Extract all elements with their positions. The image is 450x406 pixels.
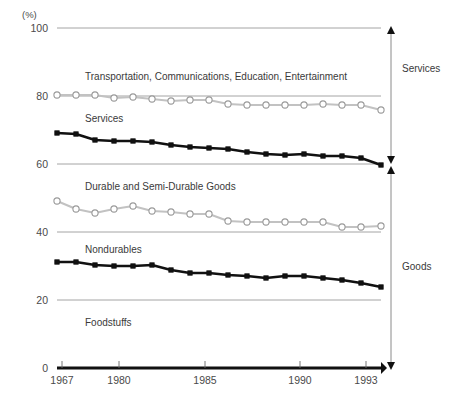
- y-tick-label-0: 0: [42, 362, 48, 374]
- series-nondurables-line: [57, 262, 381, 287]
- series-services-line: [57, 133, 381, 165]
- data-point: [92, 210, 98, 216]
- data-point: [301, 102, 307, 108]
- data-point: [55, 260, 59, 264]
- data-point: [207, 271, 211, 275]
- data-point: [93, 138, 97, 142]
- bracket-services-arrow-top: [387, 26, 395, 34]
- data-point: [225, 101, 231, 107]
- data-point: [263, 102, 269, 108]
- y-tick-label-80: 80: [36, 90, 48, 102]
- series-label-foodstuffs: Foodstuffs: [85, 317, 132, 328]
- bracket-services-arrow-bottom: [387, 156, 395, 164]
- x-tick-label-1993: 1993: [354, 374, 378, 386]
- data-point: [320, 219, 326, 225]
- data-point: [130, 203, 136, 209]
- data-point: [264, 152, 268, 156]
- data-point: [54, 92, 60, 98]
- bracket-goods-arrow-bottom: [387, 362, 395, 370]
- x-tick-label-1990: 1990: [288, 374, 312, 386]
- bracket-goods-arrow-top: [387, 166, 395, 174]
- data-point: [244, 102, 250, 108]
- y-axis-tick-labels: (%) 100 80 60 40 20 0: [22, 9, 48, 374]
- data-point: [150, 263, 154, 267]
- data-point: [283, 274, 287, 278]
- x-axis: 1967 1980 1985 1990 1993: [50, 361, 387, 386]
- data-point: [149, 208, 155, 214]
- data-point: [340, 278, 344, 282]
- data-point: [169, 143, 173, 147]
- data-point: [320, 101, 326, 107]
- series-durables-boundary: Durable and Semi-Durable Goods: [54, 181, 384, 230]
- data-point: [74, 260, 78, 264]
- data-point: [131, 264, 135, 268]
- data-point: [339, 224, 345, 230]
- data-point: [112, 264, 116, 268]
- y-tick-label-40: 40: [36, 226, 48, 238]
- bracket-goods-label: Goods: [402, 261, 431, 272]
- data-point: [73, 92, 79, 98]
- data-point: [379, 163, 383, 167]
- data-point: [207, 146, 211, 150]
- series-label-transportation: Transportation, Communications, Educatio…: [85, 71, 347, 82]
- series-services-boundary: Services: [55, 113, 383, 167]
- data-point: [378, 107, 384, 113]
- data-point: [111, 206, 117, 212]
- data-point: [111, 95, 117, 101]
- series-durables-line: [57, 201, 381, 227]
- bracket-goods: Goods: [387, 166, 431, 370]
- data-point: [188, 271, 192, 275]
- data-point: [301, 219, 307, 225]
- data-point: [358, 224, 364, 230]
- data-point: [245, 150, 249, 154]
- series-nondurables-boundary: Nondurables: [55, 244, 383, 289]
- data-point: [283, 153, 287, 157]
- data-point: [169, 268, 173, 272]
- data-point: [150, 140, 154, 144]
- data-point: [378, 223, 384, 229]
- data-point: [130, 94, 136, 100]
- series-label-durables: Durable and Semi-Durable Goods: [85, 181, 236, 192]
- data-point: [206, 211, 212, 217]
- series-top-boundary: Transportation, Communications, Educatio…: [54, 71, 384, 113]
- y-tick-label-60: 60: [36, 158, 48, 170]
- data-point: [187, 97, 193, 103]
- bracket-services: Services: [387, 26, 440, 164]
- series-top-line: [57, 95, 381, 110]
- data-point: [149, 96, 155, 102]
- gridlines: [57, 28, 381, 300]
- x-tick-label-1967: 1967: [50, 374, 74, 386]
- data-point: [263, 219, 269, 225]
- data-point: [112, 139, 116, 143]
- series-label-services: Services: [85, 113, 123, 124]
- data-point: [226, 147, 230, 151]
- data-point: [168, 209, 174, 215]
- data-point: [54, 198, 60, 204]
- data-point: [226, 273, 230, 277]
- data-point: [74, 132, 78, 136]
- data-point: [188, 145, 192, 149]
- y-tick-label-20: 20: [36, 294, 48, 306]
- data-point: [358, 102, 364, 108]
- data-point: [379, 285, 383, 289]
- data-point: [187, 211, 193, 217]
- x-axis-arrowhead: [381, 362, 387, 374]
- data-point: [359, 281, 363, 285]
- series-label-nondurables: Nondurables: [85, 244, 142, 255]
- data-point: [168, 98, 174, 104]
- chart-svg: (%) 100 80 60 40 20 0: [0, 0, 450, 406]
- data-point: [92, 92, 98, 98]
- data-point: [302, 152, 306, 156]
- data-point: [206, 97, 212, 103]
- bracket-services-label: Services: [402, 63, 440, 74]
- x-tick-label-1985: 1985: [193, 374, 217, 386]
- data-point: [55, 131, 59, 135]
- y-axis-unit-label: (%): [22, 9, 37, 20]
- y-tick-label-100: 100: [30, 22, 48, 34]
- data-point: [73, 206, 79, 212]
- data-point: [264, 276, 268, 280]
- data-point: [340, 154, 344, 158]
- data-point: [302, 274, 306, 278]
- data-point: [282, 219, 288, 225]
- data-point: [93, 263, 97, 267]
